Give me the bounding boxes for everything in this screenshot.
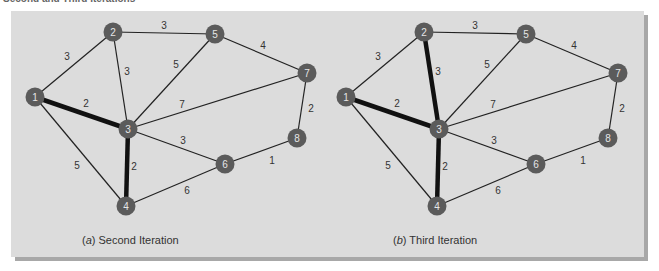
edge-weight-5-7: 4 [571,40,577,51]
svg-text:5: 5 [523,29,529,40]
edge-2-5 [113,32,215,34]
svg-text:2: 2 [110,27,116,38]
edge-weight-3-6: 3 [180,135,186,146]
node-1: 1 [26,88,45,107]
node-4: 4 [117,197,136,216]
edge-weight-7-8: 2 [308,103,314,114]
edge-weight-1-2: 3 [64,51,70,62]
svg-text:2: 2 [421,27,427,38]
edge-weight-2-5: 3 [161,20,167,31]
svg-text:4: 4 [434,201,440,212]
edge-weight-3-7: 7 [179,99,185,110]
node-8: 8 [599,129,618,148]
edge-weight-3-4: 2 [442,161,448,172]
node-7: 7 [298,64,317,83]
svg-text:6: 6 [222,159,228,170]
node-6: 6 [527,155,546,174]
edge-weight-6-8: 1 [580,155,586,166]
edge-3-5 [128,34,215,129]
edge-4-6 [126,164,225,206]
svg-text:1: 1 [32,92,38,103]
svg-text:5: 5 [212,29,218,40]
edge-3-7 [128,73,307,129]
edge-3-4 [437,129,439,206]
node-5: 5 [517,25,536,44]
svg-text:8: 8 [605,133,611,144]
caption-second-iteration: (a) Second Iteration [82,234,179,246]
edge-weight-1-4: 5 [74,160,80,171]
edge-weight-3-4: 2 [131,161,137,172]
node-7: 7 [609,64,628,83]
edge-weight-2-5: 3 [472,20,478,31]
edge-weight-2-3: 3 [124,66,130,77]
edge-3-4 [126,129,128,206]
svg-text:7: 7 [615,68,621,79]
edge-6-8 [225,138,297,164]
svg-text:7: 7 [304,68,310,79]
edge-2-3 [424,32,439,129]
edge-weight-6-8: 1 [269,155,275,166]
caption-third-iteration: (b) Third Iteration [393,234,477,246]
node-2: 2 [415,23,434,42]
graph-panel-b: 325335732642112345678 [337,20,628,216]
edge-weight-1-3: 2 [83,98,89,109]
edge-weight-3-5: 5 [173,59,179,70]
svg-text:3: 3 [436,124,442,135]
node-3: 3 [119,120,138,139]
caption-letter: a [86,234,92,246]
edge-weight-4-6: 6 [184,185,190,196]
edge-3-7 [439,73,618,129]
edge-3-6 [439,129,536,164]
edge-1-2 [346,32,424,97]
edge-weight-1-2: 3 [375,51,381,62]
edge-weight-7-8: 2 [619,103,625,114]
svg-text:3: 3 [125,124,131,135]
edge-6-8 [536,138,608,164]
edge-2-3 [113,32,128,129]
network-graphs: 3253357326421123456783253357326421123456… [0,0,659,271]
node-8: 8 [288,129,307,148]
edge-weight-3-7: 7 [490,99,496,110]
caption-text: Third Iteration [409,234,477,246]
node-2: 2 [104,23,123,42]
edge-4-6 [437,164,536,206]
caption-letter: b [397,234,403,246]
node-5: 5 [206,25,225,44]
svg-text:6: 6 [533,159,539,170]
edge-weight-1-3: 2 [394,98,400,109]
edge-weight-2-3: 3 [435,66,441,77]
node-4: 4 [428,197,447,216]
svg-text:4: 4 [123,201,129,212]
graph-panel-a: 325335732642112345678 [26,20,317,216]
edge-3-5 [439,34,526,129]
edge-1-2 [35,32,113,97]
edge-3-6 [128,129,225,164]
edge-weight-1-4: 5 [385,160,391,171]
node-6: 6 [216,155,235,174]
edge-7-8 [297,73,307,138]
node-3: 3 [430,120,449,139]
edge-weight-4-6: 6 [495,185,501,196]
edge-2-5 [424,32,526,34]
edge-weight-5-7: 4 [260,40,266,51]
edge-weight-3-6: 3 [491,135,497,146]
svg-text:8: 8 [294,133,300,144]
edge-7-8 [608,73,618,138]
caption-text: Second Iteration [99,234,179,246]
edge-weight-3-5: 5 [484,59,490,70]
node-1: 1 [337,88,356,107]
svg-text:1: 1 [343,92,349,103]
